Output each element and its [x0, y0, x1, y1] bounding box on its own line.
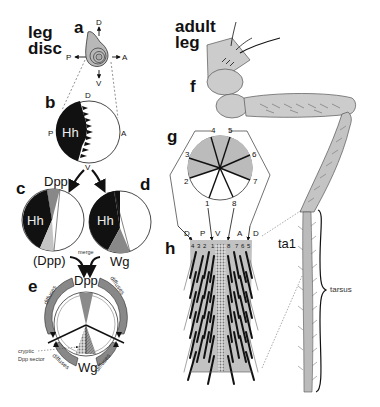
panel-label-c: c [16, 179, 25, 198]
panel-label-b: b [45, 93, 55, 112]
femur [244, 94, 356, 118]
axis-label-p: P [66, 53, 71, 62]
panel-e: e Dpp Wg diffuses diffuses diffuses diff… [18, 273, 127, 375]
tarsus-brace [316, 210, 326, 392]
label-hh-b: Hh [62, 125, 79, 140]
panel-label-d: d [140, 175, 150, 194]
sector-num-5: 5 [228, 126, 233, 135]
sector-num-6: 6 [252, 150, 257, 159]
arrow-label-d-left: D [184, 229, 190, 238]
label-dpp-e: Dpp [74, 273, 98, 288]
title-disc: disc [28, 39, 62, 58]
panel-label-e: e [28, 277, 37, 296]
sector-num-4: 4 [211, 126, 216, 135]
sector-num-3: 3 [185, 150, 190, 159]
sector-num-1: 1 [205, 199, 210, 208]
panel-label-h: h [165, 239, 175, 258]
label-cryptic: cryptic [18, 348, 34, 354]
arrow-label-v: V [215, 229, 221, 238]
label-dpp-c: Dpp [44, 174, 68, 189]
label-hh-c: Hh [27, 213, 44, 228]
leg-disc-shape [86, 32, 108, 67]
merge-arrows: merge [70, 249, 100, 275]
panel-h: h 4 3 2 1 8 7 6 5 [165, 239, 258, 384]
panel-g: g 1 2 3 4 5 6 7 8 [167, 126, 270, 240]
arrow-label-a: A [237, 229, 243, 238]
label-merge: merge [78, 249, 94, 255]
panel-label-g: g [167, 127, 177, 146]
axis-label-a-b: A [121, 129, 127, 138]
sector-num-2: 2 [184, 177, 189, 186]
arrow-label-p: P [200, 229, 205, 238]
sector-num-7: 7 [253, 177, 258, 186]
axis-label-v: V [96, 79, 102, 88]
tibia [300, 112, 351, 212]
panel-d: d Hh Wg [89, 175, 151, 269]
axis-label-p-b: P [48, 129, 53, 138]
diagram-canvas: leg disc adult leg a D V P A b [0, 0, 380, 407]
axis-label-d: D [96, 18, 102, 27]
panel-c: c Dpp Hh (Dpp) [16, 174, 84, 268]
figure-leg-disc-adult-leg: leg disc adult leg a D V P A b [0, 0, 380, 407]
label-hh-d: Hh [97, 213, 114, 228]
trochanter [207, 69, 243, 95]
label-dpp-sector: Dpp sector [18, 356, 45, 362]
label-tarsus: tarsus [330, 285, 352, 294]
label-wg-d: Wg [110, 254, 130, 269]
tarsus-segment [303, 212, 313, 392]
panel-label-f: f [190, 77, 196, 96]
axis-label-a: A [122, 53, 128, 62]
sector-num-8: 8 [232, 199, 237, 208]
title-leg-disc: leg disc [28, 23, 62, 58]
arrow-label-d-right: D [253, 229, 259, 238]
panel-label-a: a [74, 18, 84, 37]
title-leg: leg [175, 33, 200, 52]
label-dpp-paren: (Dpp) [33, 253, 66, 268]
label-ta1: ta1 [278, 236, 296, 251]
axis-label-d-b: D [85, 91, 91, 100]
axis-label-v-b: V [85, 163, 91, 172]
